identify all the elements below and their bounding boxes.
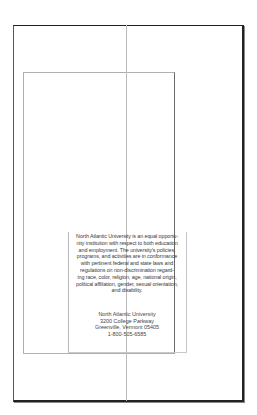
statement-line: and disability.	[65, 287, 189, 294]
statement-line: programs, and activities are in conforma…	[65, 253, 189, 260]
statement-line: regulations on non-discrimination regard…	[65, 267, 189, 274]
fold-guide-line	[126, 25, 127, 401]
address-city: Greenville, Vermont 05405	[65, 324, 189, 331]
statement-line: political affiliation, gender, sexual or…	[65, 281, 189, 288]
statement-line: ing race, color, religion, age, national…	[65, 274, 189, 281]
statement-line: and employment. The university's policie…	[65, 247, 189, 254]
statement-line: North Atlantic University is an equal op…	[65, 233, 189, 240]
statement-line: nity institution with respect to both ed…	[65, 240, 189, 247]
address-street: 3200 College Parkway	[65, 318, 189, 325]
statement-line: with pertinent federal and state laws an…	[65, 260, 189, 267]
university-address: North Atlantic University 3200 College P…	[65, 311, 189, 337]
address-name: North Atlantic University	[65, 311, 189, 318]
address-phone: 1-800-505-6585	[65, 331, 189, 338]
equal-opportunity-statement: North Atlantic University is an equal op…	[65, 233, 189, 294]
